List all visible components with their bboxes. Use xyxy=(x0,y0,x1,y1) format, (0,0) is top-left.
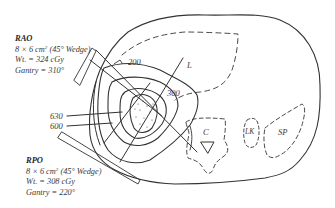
isodose-label-200: 200 xyxy=(128,58,141,67)
rao-field-size: 8 × 6 cm2 (45° Wedge) xyxy=(15,45,90,54)
organ-label-liver: L xyxy=(187,61,192,70)
isodose-label-630: 630 xyxy=(50,112,63,121)
rao-wedge-text: (45° Wedge) xyxy=(49,45,90,54)
organ-label-spleen: SP xyxy=(278,128,287,137)
target-stipple xyxy=(134,100,153,127)
rpo-beam-name: RPO xyxy=(26,156,43,165)
isodose-label-300: 300 xyxy=(167,89,180,98)
rao-beam-name: RAO xyxy=(15,34,32,43)
isodose-diagram: RAO 8 × 6 cm2 (45° Wedge) Wt. = 324 cGy … xyxy=(0,0,335,208)
isodose-label-600: 600 xyxy=(50,122,63,131)
cord-triangle xyxy=(201,142,214,153)
rpo-field-sup: 2 xyxy=(56,167,59,172)
rao-field-text: 8 × 6 cm xyxy=(15,45,45,54)
organ-label-cord: C xyxy=(203,128,209,137)
rao-gantry: Gantry = 310° xyxy=(15,67,64,75)
rpo-wedge-text: (45° Wedge) xyxy=(60,167,101,176)
rao-field-sup: 2 xyxy=(45,45,48,50)
rpo-gantry: Gantry = 220° xyxy=(26,189,75,197)
body-contour xyxy=(89,15,320,184)
rpo-weight: Wt. = 308 cGy xyxy=(26,178,75,186)
rpo-field-text: 8 × 6 cm xyxy=(26,167,56,176)
rpo-field-size: 8 × 6 cm2 (45° Wedge) xyxy=(26,167,101,176)
organ-label-left-kidney: LK xyxy=(245,128,254,136)
rao-weight: Wt. = 324 cGy xyxy=(15,56,64,64)
isodose-630 xyxy=(130,95,157,133)
